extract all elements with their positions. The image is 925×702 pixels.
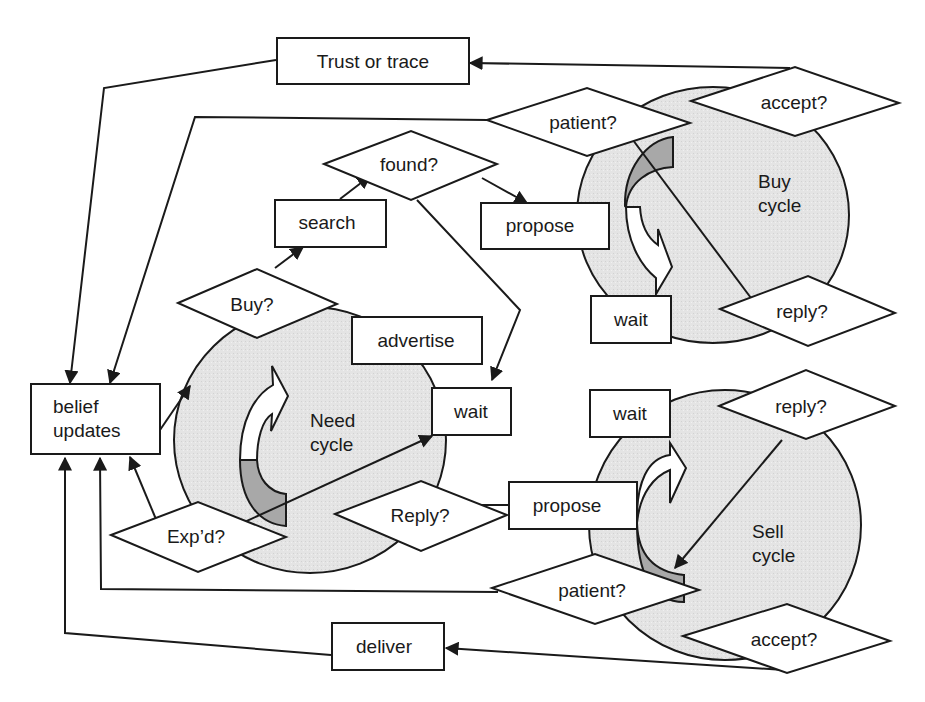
deliver-box: deliver xyxy=(332,623,444,670)
found-label: found? xyxy=(380,154,438,175)
advertise-label: advertise xyxy=(377,330,454,351)
buy-label: Buy? xyxy=(230,294,273,315)
wait-buy-label: wait xyxy=(613,309,649,330)
wait-need-label: wait xyxy=(453,401,489,422)
sell-cycle-label-1: Sell xyxy=(752,521,784,542)
edge-buy-to-search xyxy=(275,247,303,268)
search-label: search xyxy=(298,212,355,233)
need-cycle-label-1: Need xyxy=(310,410,355,431)
patient-buy-label: patient? xyxy=(549,112,617,133)
sell-cycle-label-2: cycle xyxy=(752,545,795,566)
belief-updates-box: belief updates xyxy=(31,384,160,454)
propose-sell-label: propose xyxy=(533,495,602,516)
found-decision: found? xyxy=(324,131,497,200)
trust-or-trace-label: Trust or trace xyxy=(317,51,429,72)
need-cycle-label-2: cycle xyxy=(310,434,353,455)
buy-cycle-label-2: cycle xyxy=(758,195,801,216)
reply-need-label: Reply? xyxy=(390,505,449,526)
advertise-box: advertise xyxy=(352,317,482,364)
wait-sell-box: wait xyxy=(590,390,670,437)
edge-expd-to-belief xyxy=(130,457,158,524)
edge-accept-to-trust xyxy=(470,63,790,68)
agent-cycle-diagram: Need cycle Buy cycle Sell cycle xyxy=(0,0,925,702)
deliver-label: deliver xyxy=(356,636,413,657)
accept-sell-label: accept? xyxy=(751,629,818,650)
reply-sell-label: reply? xyxy=(775,396,827,417)
wait-sell-label: wait xyxy=(612,403,648,424)
belief-updates-label-1: belief xyxy=(53,396,99,417)
trust-or-trace-box: Trust or trace xyxy=(277,38,469,84)
buy-cycle-label-1: Buy xyxy=(758,171,791,192)
propose-buy-box: propose xyxy=(481,203,609,249)
wait-need-box: wait xyxy=(432,388,511,435)
search-box: search xyxy=(275,200,386,247)
expd-label: Exp’d? xyxy=(167,526,225,547)
wait-buy-box: wait xyxy=(591,296,671,343)
patient-sell-label: patient? xyxy=(558,580,626,601)
edge-found-to-propose xyxy=(482,178,527,203)
propose-buy-label: propose xyxy=(506,215,575,236)
accept-buy-label: accept? xyxy=(761,92,828,113)
reply-buy-label: reply? xyxy=(776,301,828,322)
propose-sell-box: propose xyxy=(509,482,637,529)
belief-updates-label-2: updates xyxy=(53,420,121,441)
